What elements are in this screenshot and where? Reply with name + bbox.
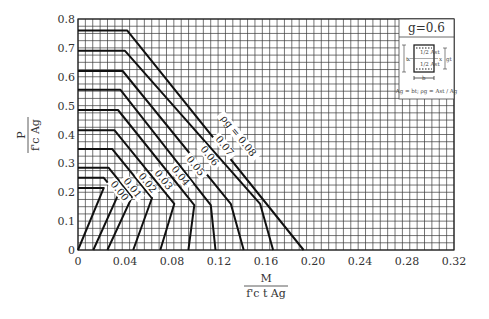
y-tick-label: 0 [68,244,75,257]
y-tick-label: 0.8 [58,13,76,26]
y-tick-label: 0.1 [58,215,76,228]
inset-formula: Ag = bt; ρg = Ast / Ag [395,88,458,95]
x-tick-label: 0.32 [442,255,467,268]
x-axis-title: M f'c t Ag [244,272,288,300]
y-title-denominator: f'c Ag [29,119,42,151]
x-title-numerator: M [260,272,271,285]
y-tick-label: 0.4 [58,129,76,142]
y-tick-label: 0.7 [58,42,76,55]
y-tick-label: 0.3 [58,157,76,170]
inset-title-gamma: g=0.6 [408,21,445,35]
x-tick-label: 0 [75,255,82,268]
y-title-numerator: P [15,131,28,139]
interaction-diagram: ρg = 0.080.070.060.050.040.030.020.010.0… [0,0,489,319]
gt-label: gt [446,56,453,63]
y-tick-label: 0.2 [58,186,76,199]
x-tick-label: 0.24 [348,255,373,268]
x-title-denominator: f'c t Ag [246,287,286,300]
x-tick-label: 0.04 [113,255,138,268]
x-tick-label: 0.08 [160,255,185,268]
y-axis-title: P f'c Ag [15,117,42,153]
x-tick-label: 0.16 [254,255,279,268]
width-label: b [422,75,426,81]
y-tick-label: 0.5 [58,100,76,113]
y-axis-ticks: 00.10.20.30.40.50.60.70.8 [58,13,76,257]
top-steel-label: 1/2 Ast [420,49,440,55]
y-tick-label: 0.6 [58,71,76,84]
plot-grid [78,19,454,250]
x-tick-label: 0.28 [395,255,420,268]
x-axis-ticks: 00.040.080.120.160.200.240.280.32 [75,255,467,268]
x-tick-label: 0.20 [301,255,326,268]
bottom-steel-label: 1/2 Ast [420,61,440,67]
section-inset: g=0.6 x x 1/2 Ast 1/2 Ast t gt b Ag = bt… [395,19,458,99]
x-tick-label: 0.12 [207,255,232,268]
